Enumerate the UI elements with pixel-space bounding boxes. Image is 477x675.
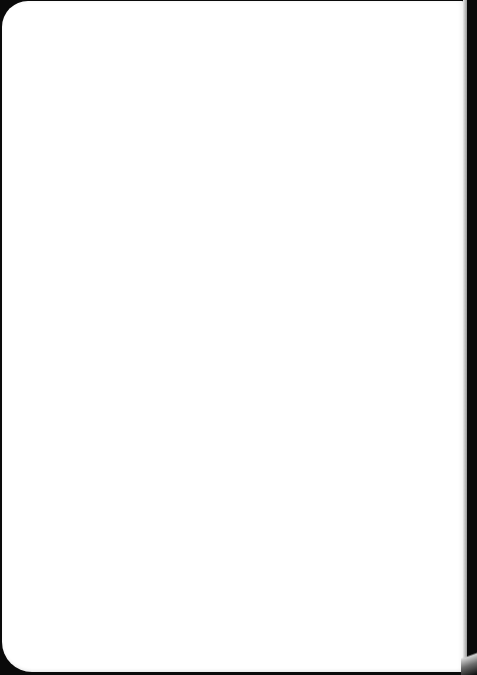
page-edge-shadow [463,0,467,675]
blank-paper-page [2,1,464,672]
page-corner-curl [461,639,477,675]
document-stage [0,0,477,675]
page-content-area [32,31,434,642]
